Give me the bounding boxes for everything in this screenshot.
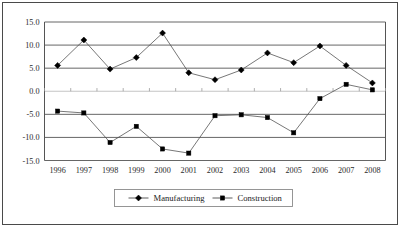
data-point-construction — [265, 115, 269, 119]
data-point-manufacturing — [343, 62, 349, 68]
data-point-construction — [344, 82, 348, 86]
y-tick-label: 15.0 — [25, 18, 39, 27]
chart-figure: 15.010.05.00.0-5.0-10.0-15.0 19961997199… — [0, 0, 404, 231]
x-tick-label: 2002 — [207, 166, 223, 175]
line-chart: 15.010.05.00.0-5.0-10.0-15.0 19961997199… — [0, 0, 404, 231]
x-tick-label: 2007 — [338, 166, 354, 175]
data-point-construction — [292, 131, 296, 135]
data-point-manufacturing — [369, 80, 375, 86]
data-point-manufacturing — [212, 77, 218, 83]
data-point-construction — [239, 113, 243, 117]
legend-marker-construction — [220, 196, 224, 200]
gridlines — [45, 22, 386, 161]
x-axis-labels: 1996199719981999200020012002200320042005… — [49, 166, 380, 175]
y-tick-label: -5.0 — [27, 110, 40, 119]
data-point-manufacturing — [291, 60, 297, 66]
y-tick-label: -15.0 — [22, 157, 39, 166]
data-point-construction — [187, 151, 191, 155]
x-tick-label: 1998 — [102, 166, 118, 175]
x-tick-label: 2005 — [286, 166, 302, 175]
data-point-construction — [160, 147, 164, 151]
x-tick-label: 2000 — [154, 166, 170, 175]
data-point-construction — [82, 111, 86, 115]
data-point-construction — [56, 109, 60, 113]
data-series — [55, 30, 376, 155]
data-point-construction — [108, 140, 112, 144]
data-point-manufacturing — [186, 70, 192, 76]
legend-label-construction: Construction — [238, 193, 283, 203]
data-point-construction — [134, 124, 138, 128]
x-tick-label: 1996 — [49, 166, 65, 175]
data-point-construction — [213, 114, 217, 118]
data-point-construction — [318, 97, 322, 101]
y-tick-label: -10.0 — [22, 133, 39, 142]
x-tick-label: 1999 — [128, 166, 144, 175]
y-tick-label: 10.0 — [25, 41, 39, 50]
legend-label-manufacturing: Manufacturing — [154, 193, 206, 203]
y-tick-label: 5.0 — [29, 64, 39, 73]
x-tick-label: 2008 — [364, 166, 380, 175]
data-point-manufacturing — [317, 43, 323, 49]
data-point-construction — [370, 88, 374, 92]
chart-legend: ManufacturingConstruction — [115, 190, 293, 207]
x-tick-label: 2003 — [233, 166, 249, 175]
x-tick-label: 2001 — [181, 166, 197, 175]
x-tick-label: 1997 — [76, 166, 92, 175]
series-line-manufacturing — [58, 33, 373, 83]
data-point-manufacturing — [264, 50, 270, 56]
series-line-construction — [58, 84, 373, 153]
x-tick-label: 2004 — [259, 166, 275, 175]
y-tick-label: 0.0 — [29, 87, 39, 96]
y-axis-labels: 15.010.05.00.0-5.0-10.0-15.0 — [22, 18, 39, 166]
x-tick-label: 2006 — [312, 166, 328, 175]
